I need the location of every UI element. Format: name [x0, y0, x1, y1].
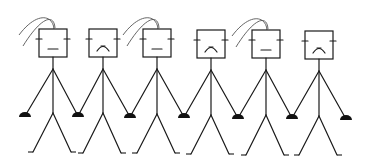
frown-mouth-icon	[313, 49, 325, 54]
arm-right	[53, 69, 78, 116]
leg-left	[191, 115, 211, 154]
hand-icon	[19, 112, 31, 117]
arm-right	[103, 69, 130, 117]
leg-left	[246, 115, 266, 155]
arm-left	[78, 69, 103, 116]
stick-figure-illustration	[0, 0, 369, 168]
frown-mouth-icon	[97, 47, 109, 52]
hand-icon	[340, 115, 352, 120]
stick-figure	[123, 18, 184, 153]
stick-figure	[78, 29, 130, 153]
leg-left	[137, 114, 157, 153]
leg-right	[211, 115, 229, 154]
arm-left	[292, 71, 319, 118]
leg-right	[103, 113, 121, 153]
leg-right	[319, 116, 337, 155]
leg-right	[266, 115, 284, 155]
hair-icon	[19, 18, 55, 46]
hand-icon	[232, 114, 244, 119]
arm-left	[184, 70, 211, 117]
arm-right	[319, 71, 346, 119]
square-head	[143, 29, 171, 57]
square-head	[252, 30, 280, 58]
hair-icon	[232, 19, 268, 47]
frown-mouth-icon	[205, 48, 217, 53]
stick-figure	[232, 19, 292, 155]
square-head	[197, 30, 225, 58]
leg-right	[157, 114, 175, 153]
hand-icon	[286, 114, 298, 119]
hand-icon	[178, 113, 190, 118]
square-head	[305, 31, 333, 59]
stick-figure	[292, 31, 346, 155]
leg-left	[83, 113, 103, 153]
arm-left	[25, 69, 53, 116]
square-head	[39, 29, 67, 57]
leg-right	[53, 113, 71, 152]
square-head	[89, 29, 117, 57]
stick-figures-drawing	[0, 0, 369, 168]
arm-left	[238, 70, 266, 118]
hair-icon	[123, 18, 159, 46]
arm-right	[266, 70, 292, 118]
arm-right	[157, 69, 184, 117]
arm-left	[130, 69, 157, 117]
hand-icon	[124, 113, 136, 118]
hand-icon	[72, 112, 84, 117]
stick-figure	[184, 30, 238, 154]
arm-right	[211, 70, 238, 118]
leg-left	[33, 113, 53, 152]
leg-left	[299, 116, 319, 155]
stick-figure	[19, 18, 78, 152]
